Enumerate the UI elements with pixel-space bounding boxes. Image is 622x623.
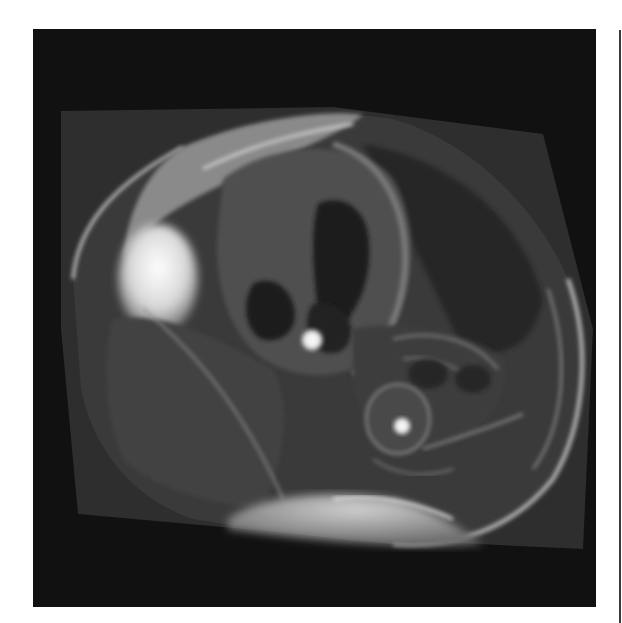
mri-scan [33,29,596,607]
mri-image-panel: Cardiac MRI axial slice showing heart ch… [33,29,596,607]
page-edge-line [619,30,621,623]
